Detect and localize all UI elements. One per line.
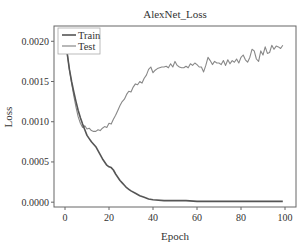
x-tick-label: 0 (63, 212, 68, 223)
loss-chart: AlexNet_Loss 0.00000.00050.00100.00150.0… (0, 0, 306, 246)
plot-area: 0.00000.00050.00100.00150.0020 020406080… (22, 26, 297, 223)
y-axis-label: Loss (2, 107, 14, 128)
x-tick-label: 60 (192, 212, 202, 223)
y-tick-label: 0.0020 (22, 36, 50, 47)
legend-label-train: Train (78, 30, 101, 41)
y-axis-ticks: 0.00000.00050.00100.00150.0020 (22, 36, 55, 208)
y-tick-label: 0.0015 (22, 76, 50, 87)
x-tick-label: 40 (148, 212, 158, 223)
x-axis-label: Epoch (161, 230, 190, 242)
y-tick-label: 0.0000 (22, 197, 50, 208)
y-tick-label: 0.0005 (22, 156, 50, 167)
chart-title: AlexNet_Loss (143, 8, 207, 20)
x-axis-ticks: 020406080100 (63, 207, 293, 223)
legend-label-test: Test (78, 41, 95, 52)
x-tick-label: 100 (278, 212, 293, 223)
x-tick-label: 80 (236, 212, 246, 223)
legend: Train Test (58, 28, 101, 54)
y-tick-label: 0.0010 (22, 116, 50, 127)
x-tick-label: 20 (104, 212, 114, 223)
